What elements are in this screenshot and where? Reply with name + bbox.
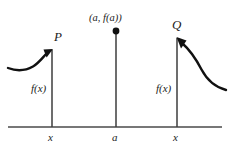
point-q-label: Q xyxy=(172,18,181,31)
point-p-label: P xyxy=(54,30,62,43)
axis-tick-label-x-right: x xyxy=(173,132,178,143)
limit-figure: (a, f(a)) P Q f(x) f(x) x a x xyxy=(0,0,231,147)
fx-label-left: f(x) xyxy=(31,83,46,94)
axis-tick-label-x-left: x xyxy=(48,132,53,143)
a-f-a-label: (a, f(a)) xyxy=(89,13,122,24)
left-branch-curve xyxy=(8,53,48,71)
fx-label-right: f(x) xyxy=(156,83,171,94)
a-f-a-point-dot xyxy=(113,28,120,35)
right-branch-curve xyxy=(183,44,227,91)
axis-tick-label-a: a xyxy=(112,132,118,143)
